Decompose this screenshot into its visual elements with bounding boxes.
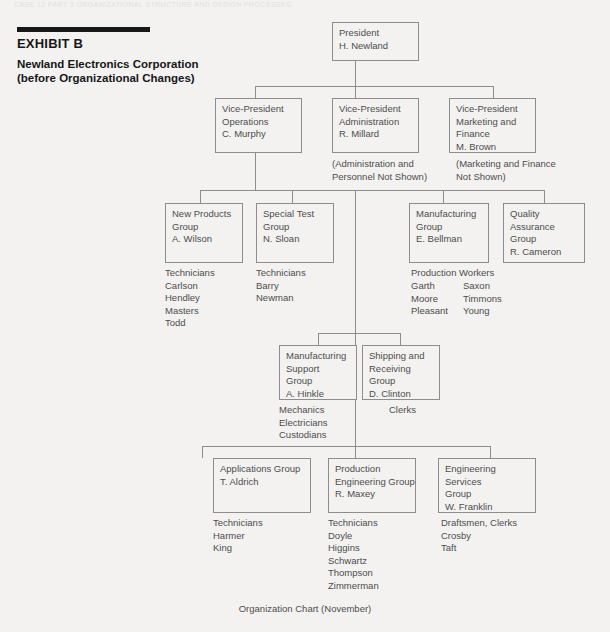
connector-operations-drop	[255, 153, 256, 190]
node-engineering-services-group: Engineering Services Group W. Franklin	[438, 458, 536, 513]
staff-list-engineering-services: Draftsmen, Clerks Crosby Taft	[441, 517, 561, 555]
note-marketing-finance: (Marketing and Finance Not Shown)	[456, 158, 596, 183]
staff-heading-manufacturing: Production Workers	[411, 267, 551, 280]
connector-vp-administration-stem	[355, 86, 356, 98]
connector-production-engineering-stem	[355, 446, 356, 458]
connector-mfg-support-branch	[318, 333, 356, 334]
connector-special-test-stem	[292, 190, 293, 203]
connector-mfg-support-stem	[318, 333, 319, 345]
staff-list-special-test: Technicians Barry Newman	[256, 267, 346, 305]
node-new-products-group: New Products Group A. Wilson	[165, 203, 243, 263]
node-vp-marketing-finance: Vice-President Marketing and Finance M. …	[449, 98, 536, 153]
connector-group-bus	[200, 190, 544, 191]
staff-list-manufacturing-support: Mechanics Electricians Custodians	[279, 404, 369, 442]
exhibit-label: EXHIBIT B	[17, 36, 83, 51]
connector-president-stem	[355, 61, 356, 86]
node-quality-assurance-group: Quality Assurance Group R. Cameron	[503, 203, 585, 263]
node-production-engineering-group: Production Engineering Group R. Maxey	[328, 458, 416, 513]
node-vp-operations: Vice-President Operations C. Murphy	[215, 98, 302, 153]
staff-list-shipping-receiving: Clerks	[389, 404, 479, 417]
connector-vp-bus	[255, 86, 493, 87]
node-president: President H. Newland	[332, 22, 419, 61]
connector-vp-operations-stem	[255, 86, 256, 98]
connector-bottom-bus	[202, 446, 490, 447]
connector-shipping-stem	[400, 333, 401, 345]
connector-quality-stem	[544, 190, 545, 203]
note-administration: (Administration and Personnel Not Shown)	[332, 158, 457, 183]
chart-caption: Organization Chart (November)	[0, 603, 610, 614]
org-chart-page: CASE 12 PART 3 ORGANIZATIONAL STRUCTURE …	[0, 0, 610, 632]
node-manufacturing-group: Manufacturing Group E. Bellman	[409, 203, 489, 263]
running-header: CASE 12 PART 3 ORGANIZATIONAL STRUCTURE …	[14, 1, 574, 10]
node-shipping-receiving-group: Shipping and Receiving Group D. Clinton	[362, 345, 440, 400]
staff-list-applications: Technicians Harmer King	[213, 517, 313, 555]
staff-list-manufacturing-col2: Saxon Timmons Young	[463, 280, 523, 318]
connector-new-products-stem	[200, 190, 201, 203]
connector-applications-stem	[202, 446, 203, 458]
staff-list-new-products: Technicians Carlson Hendley Masters Todd	[165, 267, 255, 330]
connector-vp-marketing-stem	[493, 86, 494, 98]
node-special-test-group: Special Test Group N. Sloan	[256, 203, 334, 263]
staff-list-production-engineering: Technicians Doyle Higgins Schwartz Thomp…	[328, 517, 428, 593]
connector-shipping-branch	[355, 333, 400, 334]
exhibit-rule	[17, 27, 150, 32]
node-applications-group: Applications Group T. Aldrich	[213, 458, 311, 513]
node-vp-administration: Vice-President Administration R. Millard	[332, 98, 419, 153]
node-manufacturing-support-group: Manufacturing Support Group A. Hinkle	[279, 345, 357, 400]
staff-list-manufacturing-col1: Garth Moore Pleasant	[411, 280, 466, 318]
exhibit-subtitle: Newland Electronics Corporation (before …	[17, 58, 202, 85]
connector-manufacturing-stem	[443, 190, 444, 203]
connector-engineering-services-stem	[490, 446, 491, 458]
